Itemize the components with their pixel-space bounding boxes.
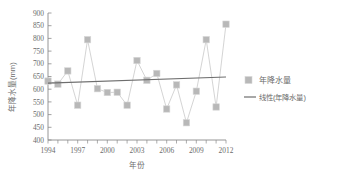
- y-tick-labels: 900 850 800 750 700 650 600 550 500 450 …: [33, 9, 44, 145]
- data-point-marker: [55, 81, 61, 87]
- y-tick-label: 450: [33, 123, 44, 132]
- y-axis-ticks: [48, 13, 52, 140]
- x-axis-title: 年份: [129, 160, 145, 170]
- data-point-marker: [114, 89, 120, 95]
- data-point-marker: [173, 82, 179, 88]
- data-point-marker: [65, 68, 71, 74]
- precipitation-chart-figure: 年降水量(mm) 900 850 800 750 700 650 600 550…: [0, 0, 350, 188]
- y-tick-label: 800: [33, 34, 44, 43]
- x-tick-label: 2003: [130, 146, 145, 155]
- data-point-marker: [104, 89, 110, 95]
- data-point-marker: [183, 120, 189, 126]
- legend-label-trend: 线性(年降水量): [259, 93, 306, 102]
- data-point-marker: [203, 36, 209, 42]
- x-axis-ticks: [48, 140, 226, 144]
- x-tick-label: 2000: [100, 146, 115, 155]
- x-tick-label: 2006: [159, 146, 174, 155]
- data-point-marker: [124, 102, 130, 108]
- y-tick-label: 650: [33, 72, 44, 81]
- trend-line-segment: [48, 77, 226, 83]
- chart-legend: 年降水量 线性(年降水量): [244, 75, 306, 102]
- x-tick-labels: 1994 1997 2000 2003 2006 2009 2012: [41, 146, 234, 155]
- chart-canvas: 年降水量(mm) 900 850 800 750 700 650 600 550…: [0, 0, 350, 188]
- data-point-marker: [134, 57, 140, 63]
- data-point-marker: [154, 70, 160, 76]
- trend-line-linear: [48, 77, 226, 83]
- y-tick-label: 700: [33, 59, 44, 68]
- data-point-marker: [84, 36, 90, 42]
- data-point-marker: [74, 102, 80, 108]
- y-tick-label: 850: [33, 21, 44, 30]
- data-series-precipitation: [45, 21, 229, 126]
- data-point-marker: [213, 104, 219, 110]
- y-tick-label: 550: [33, 98, 44, 107]
- x-tick-label: 1994: [41, 146, 56, 155]
- y-tick-label: 400: [33, 136, 44, 145]
- y-axis-title: 年降水量(mm): [7, 62, 17, 112]
- legend-label-series: 年降水量: [259, 75, 291, 85]
- x-tick-label: 1997: [70, 146, 85, 155]
- y-tick-label: 500: [33, 110, 44, 119]
- x-tick-label: 2009: [189, 146, 204, 155]
- legend-square-marker-icon: [245, 77, 252, 84]
- y-tick-label: 600: [33, 85, 44, 94]
- y-tick-label: 750: [33, 47, 44, 56]
- data-point-marker: [94, 85, 100, 91]
- data-point-marker: [193, 88, 199, 94]
- data-point-marker: [163, 106, 169, 112]
- y-tick-label: 900: [33, 9, 44, 18]
- data-point-marker: [223, 21, 229, 27]
- x-tick-label: 2012: [219, 146, 234, 155]
